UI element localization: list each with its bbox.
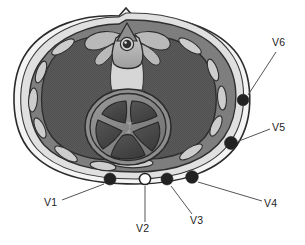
electrode-label-v3: V3 xyxy=(190,214,203,226)
spinal-cord-highlight xyxy=(124,41,127,44)
electrode-marker-v6[interactable] xyxy=(237,94,249,106)
electrode-label-v4: V4 xyxy=(264,197,277,209)
electrode-label-v6: V6 xyxy=(272,36,285,48)
electrode-marker-v3[interactable] xyxy=(161,173,173,185)
electrode-label-v5: V5 xyxy=(272,121,285,133)
heart-group xyxy=(85,89,171,165)
electrode-label-v1: V1 xyxy=(44,196,57,208)
figure-root: V1V2V3V4V5V6 xyxy=(0,0,305,245)
thorax-cross-section-diagram: V1V2V3V4V5V6 xyxy=(0,0,305,245)
spinal-cord xyxy=(123,40,132,49)
electrode-marker-v1[interactable] xyxy=(104,173,116,185)
electrode-marker-v4[interactable] xyxy=(186,171,199,184)
electrode-label-v2: V2 xyxy=(136,222,149,234)
electrode-marker-v5[interactable] xyxy=(225,137,238,150)
electrode-marker-v2[interactable] xyxy=(139,173,150,184)
